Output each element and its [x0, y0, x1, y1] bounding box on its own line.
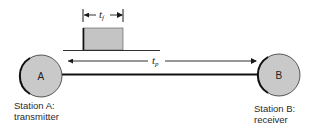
frame-time-dimension: tf [83, 8, 123, 22]
station-b-title: Station B: [254, 103, 295, 114]
station-a-title: Station A: [14, 100, 59, 111]
propagation-time-label: tp [152, 54, 159, 68]
station-a-caption: Station A: transmitter [14, 100, 59, 122]
frame-time-label: tf [99, 8, 105, 22]
station-b-node: B [258, 54, 300, 96]
frame-pulse [63, 28, 160, 51]
propagation-time-arrow: tp [68, 54, 256, 68]
station-a-role: transmitter [14, 111, 59, 122]
station-a-node: A [20, 55, 62, 97]
station-a-letter: A [38, 71, 45, 82]
station-b-caption: Station B: receiver [254, 103, 295, 125]
station-b-role: receiver [254, 114, 295, 125]
station-b-letter: B [276, 70, 283, 81]
